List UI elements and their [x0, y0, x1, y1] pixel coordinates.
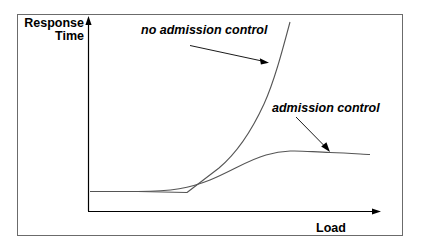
- x-axis: [88, 208, 381, 214]
- leader-arrow-no-admission-control: [190, 46, 269, 65]
- annotation-no-admission-control: no admission control: [141, 23, 267, 37]
- y-axis: [85, 16, 91, 211]
- x-axis-label: Load: [316, 222, 346, 235]
- figure-screenshot: Response Time Load no admission control …: [0, 0, 422, 251]
- y-axis-label: Response Time: [22, 17, 84, 43]
- curve-no-admission-control: [90, 22, 290, 193]
- annotation-admission-control: admission control: [272, 101, 380, 115]
- leader-arrow-admission-control: [296, 117, 330, 152]
